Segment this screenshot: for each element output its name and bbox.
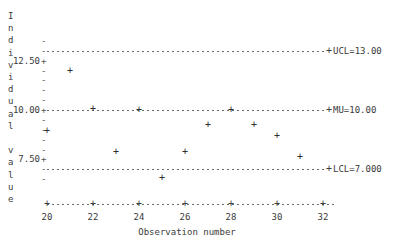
data-point: + [182,147,188,157]
data-point: + [274,131,280,141]
y-axis-minor-tick: - [41,37,46,46]
y-axis-title-char: l [8,171,13,180]
reference-line-end-marker: + [326,105,332,115]
y-axis-minor-tick: - [41,165,46,174]
y-axis-minor-tick: - [41,146,46,155]
y-axis-minor-tick: - [41,136,46,145]
data-point: + [136,105,142,115]
y-axis-minor-tick: - [41,86,46,95]
y-axis-tick-label: 7.50 [0,155,40,164]
reference-line-lcl [47,169,327,170]
x-axis-tick: + [182,199,188,209]
data-point: + [67,66,73,76]
reference-line-end-marker: + [326,164,332,174]
x-axis-tick: + [228,199,234,209]
y-axis-minor-tick: - [41,96,46,105]
y-axis-title-char: n [8,24,13,33]
limit-label-ucl: UCL=13.00 [333,47,382,56]
data-point: + [90,104,96,114]
x-axis-tick: + [320,199,326,209]
x-axis-tick: + [44,199,50,209]
y-axis-title-char: l [8,122,13,131]
y-axis-title-char: d [8,85,13,94]
y-axis-title-char: I [8,12,13,21]
control-chart: Individualvalue 12.5010.007.50 --+----+-… [0,0,394,243]
y-axis-minor-tick: - [41,76,46,85]
y-axis-major-tick: + [41,106,46,115]
limit-label-mu: MU=10.00 [333,106,376,115]
x-axis-tick: + [90,199,96,209]
data-point: + [297,152,303,162]
y-axis-title-char: v [8,146,13,155]
limit-label-lcl: LCL=7.000 [333,165,382,174]
x-axis-tick: + [136,199,142,209]
x-axis-tick: + [274,199,280,209]
y-axis-major-tick: + [41,57,46,66]
x-axis-tick-label: 30 [272,213,283,222]
x-axis-tick-label: 22 [88,213,99,222]
data-point: + [44,126,50,136]
x-axis-tick-label: 28 [226,213,237,222]
data-point: + [159,173,165,183]
y-axis-title-char: i [8,73,13,82]
y-axis-major-tick: + [41,155,46,164]
y-axis-minor-tick: - [41,47,46,56]
x-axis-tick-label: 32 [318,213,329,222]
data-point: + [228,105,234,115]
x-axis-tick-label: 24 [134,213,145,222]
y-axis-title-char: d [8,36,13,45]
x-axis-title: Observation number [138,228,236,237]
y-axis-tick-label: 10.00 [0,106,40,115]
reference-line-end-marker: + [326,46,332,56]
x-axis-tick-label: 26 [180,213,191,222]
data-point: + [205,120,211,130]
y-axis-tick-label: 12.50 [0,57,40,66]
y-axis-minor-tick: - [41,67,46,76]
y-axis-title-char: u [8,183,13,192]
x-axis-tick-label: 20 [42,213,53,222]
data-point: + [251,120,257,130]
y-axis-title-char: e [8,195,13,204]
y-axis-minor-tick: - [41,116,46,125]
reference-line-ucl [47,51,327,52]
data-point: + [113,147,119,157]
y-axis-minor-tick: - [41,175,46,184]
